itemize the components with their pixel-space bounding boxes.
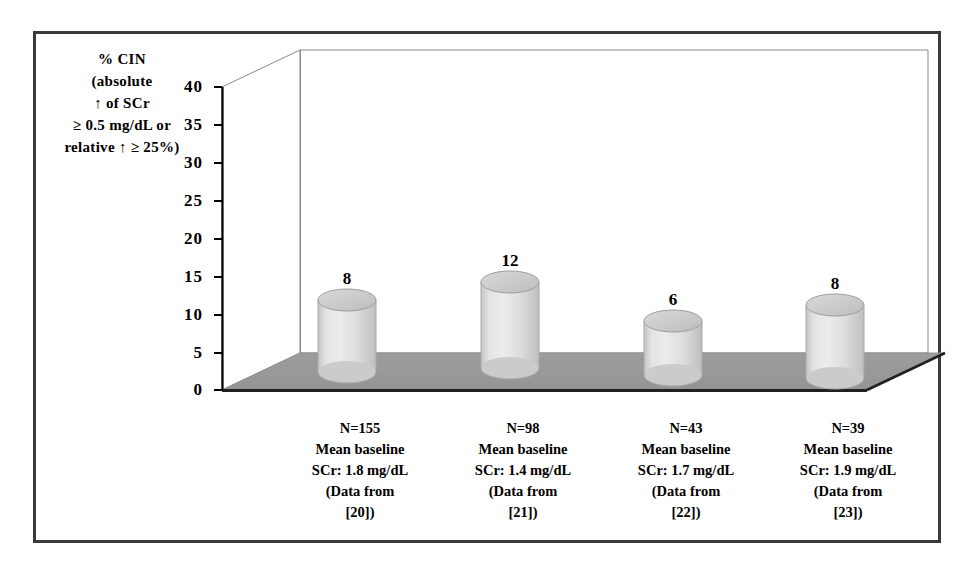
category-3-line-2: Mean baseline bbox=[596, 439, 776, 460]
category-label-3: N=43 Mean baseline SCr: 1.7 mg/dL (Data … bbox=[596, 418, 776, 523]
category-2-line-1: N=98 bbox=[433, 418, 613, 439]
category-label-4: N=39 Mean baseline SCr: 1.9 mg/dL (Data … bbox=[758, 418, 938, 523]
bar-value-label-3: 6 bbox=[643, 290, 703, 310]
category-4-line-5: [23]) bbox=[758, 502, 938, 523]
bar-value-label-4: 8 bbox=[805, 274, 865, 294]
category-4-line-3: SCr: 1.9 mg/dL bbox=[758, 460, 938, 481]
y-tick-label-35: 35 bbox=[163, 115, 203, 135]
category-3-line-4: (Data from bbox=[596, 481, 776, 502]
category-3-line-3: SCr: 1.7 mg/dL bbox=[596, 460, 776, 481]
category-4-line-2: Mean baseline bbox=[758, 439, 938, 460]
category-1-line-4: (Data from bbox=[270, 481, 450, 502]
category-2-line-5: [21]) bbox=[433, 502, 613, 523]
category-2-line-4: (Data from bbox=[433, 481, 613, 502]
category-4-line-4: (Data from bbox=[758, 481, 938, 502]
category-1-line-5: [20]) bbox=[270, 502, 450, 523]
y-tick-label-20: 20 bbox=[163, 229, 203, 249]
category-1-line-3: SCr: 1.8 mg/dL bbox=[270, 460, 450, 481]
y-tick-label-25: 25 bbox=[163, 191, 203, 211]
category-label-1: N=155 Mean baseline SCr: 1.8 mg/dL (Data… bbox=[270, 418, 450, 523]
y-tick-label-15: 15 bbox=[163, 267, 203, 287]
y-tick-label-30: 30 bbox=[163, 153, 203, 173]
y-axis-title-line-1: % CIN bbox=[36, 48, 208, 70]
y-tick-label-5: 5 bbox=[163, 343, 203, 363]
bar-value-label-1: 8 bbox=[317, 269, 377, 289]
bar-value-label-2: 12 bbox=[480, 251, 540, 271]
y-axis-title: % CIN (absolute ↑ of SCr ≥ 0.5 mg/dL or … bbox=[36, 48, 208, 158]
category-2-line-3: SCr: 1.4 mg/dL bbox=[433, 460, 613, 481]
y-tick-label-40: 40 bbox=[163, 77, 203, 97]
category-4-line-1: N=39 bbox=[758, 418, 938, 439]
category-3-line-1: N=43 bbox=[596, 418, 776, 439]
category-2-line-2: Mean baseline bbox=[433, 439, 613, 460]
y-tick-label-0: 0 bbox=[163, 380, 203, 400]
category-1-line-1: N=155 bbox=[270, 418, 450, 439]
y-tick-label-10: 10 bbox=[163, 305, 203, 325]
category-3-line-5: [22]) bbox=[596, 502, 776, 523]
category-label-2: N=98 Mean baseline SCr: 1.4 mg/dL (Data … bbox=[433, 418, 613, 523]
category-1-line-2: Mean baseline bbox=[270, 439, 450, 460]
